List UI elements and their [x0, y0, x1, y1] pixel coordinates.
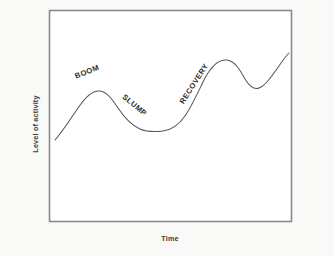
chart-canvas: BOOM SLUMP RECOVERY Level of activity Ti…: [0, 0, 334, 256]
plot-area-frame: [50, 11, 292, 222]
business-cycle-figure: BOOM SLUMP RECOVERY Level of activity Ti…: [0, 0, 334, 256]
x-axis-label: Time: [161, 234, 178, 243]
y-axis-label: Level of activity: [31, 95, 40, 152]
